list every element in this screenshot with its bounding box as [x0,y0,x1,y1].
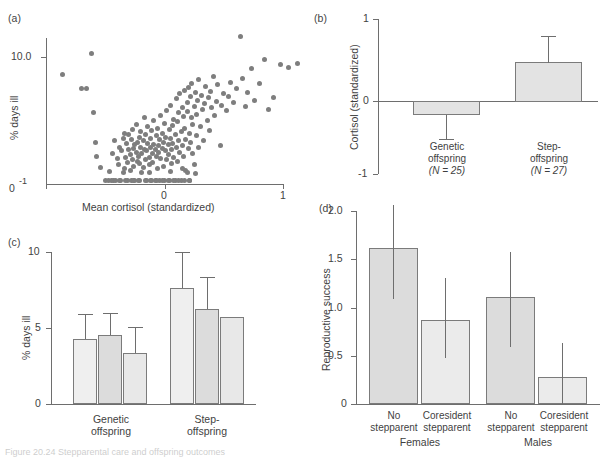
panel-b-error-step [548,36,549,63]
scatter-point [215,82,220,87]
panel-d-category-males-coresident: Coresident stepparent [528,410,600,433]
scatter-point [185,109,190,114]
scatter-point [182,126,187,131]
scatter-point [180,143,185,148]
panel-b-yticklabel-0: 0 [363,94,369,106]
scatter-point [278,62,283,67]
scatter-point [142,115,147,120]
scatter-point [110,151,115,156]
scatter-point [206,95,211,100]
scatter-point [234,86,239,91]
panel-b-category-step: Step- offspring [508,141,590,164]
scatter-point [112,138,117,143]
panel-b-sublabel-step: (N = 27) [508,165,590,177]
scatter-point [188,140,193,145]
scatter-point [196,145,201,150]
scatter-point [117,178,122,183]
scatter-point [194,112,199,117]
scatter-point [124,141,129,146]
scatter-point [121,170,126,175]
scatter-point [187,178,192,183]
panel-c-bar: (c) 10 5 0 % days ill Genetic offspring … [0,222,300,456]
scatter-point [84,86,89,91]
panel-b-category-genetic: Genetic offspring [406,141,488,164]
scatter-point [190,122,195,127]
scatter-point [243,104,248,109]
scatter-point [190,151,195,156]
scatter-point [245,90,250,95]
scatter-point [201,138,206,143]
panel-b-error-cap-genetic [439,139,454,140]
scatter-point [123,178,128,183]
scatter-point [196,77,201,82]
panel-b-ytick-1 [373,19,378,20]
scatter-point [189,81,194,86]
panel-d-ytick-15 [351,259,356,260]
scatter-point [148,178,153,183]
scatter-point [202,101,207,106]
scatter-point [231,100,236,105]
panel-d-error-females-coresident [445,278,446,358]
scatter-point [208,89,213,94]
scatter-point [148,136,153,141]
scatter-point [147,170,152,175]
scatter-point [119,148,124,153]
scatter-point [271,95,276,100]
scatter-point [185,170,190,175]
panel-c-error-genetic-2 [110,313,111,335]
scatter-point [240,76,245,81]
panel-c-bar-genetic-3 [123,353,147,404]
scatter-point [60,72,65,77]
panel-d-ytick-05 [351,356,356,357]
figure-caption: Figure 20.24 Stepparental care and offsp… [5,447,225,457]
scatter-point [193,90,198,95]
panel-c-error-step-1 [182,252,183,288]
scatter-point [205,118,210,123]
panel-b-sublabel-genetic: (N = 25) [406,165,488,177]
panel-d-ytick-10 [351,308,356,309]
scatter-point [131,178,136,183]
scatter-point [166,178,171,183]
panel-b-ytick-0 [373,101,378,102]
scatter-point [199,93,204,98]
scatter-point [134,122,139,127]
scatter-point [175,119,180,124]
scatter-point [181,114,186,119]
scatter-point [262,57,267,62]
panel-d-yticklabel-15: 1.5 [328,252,343,264]
panel-d-category-females-coresident: Coresident stepparent [411,410,483,433]
panel-d-yticklabel-0: 0 [341,397,347,409]
scatter-point [226,94,231,99]
panel-d-y-axis [356,211,357,405]
panel-c-error-cap-step-2 [200,277,215,278]
panel-b-ylabel: Cortisol (standardized) [348,44,360,150]
panel-b-bar-step [515,62,582,102]
scatter-point [207,128,212,133]
scatter-point [200,107,205,112]
scatter-point [295,61,300,66]
panel-d-ytick-20 [351,211,356,212]
scatter-point [181,154,186,159]
panel-d-error-females-no-stepparent [393,205,394,299]
scatter-point [107,169,112,174]
panel-b-ytick-neg1 [373,174,378,175]
scatter-point [158,113,163,118]
panel-c-label: (c) [8,236,21,248]
scatter-point [158,156,163,161]
panel-c-error-cap-genetic-3 [128,327,143,328]
scatter-point [174,145,179,150]
scatter-point [228,80,233,85]
scatter-point [155,126,160,131]
panel-b-bar: (b) 1 0 -1 Cortisol (standardized) Genet… [300,0,616,200]
panel-c-error-cap-genetic-3-line [135,327,136,353]
scatter-point [176,178,181,183]
scatter-point [193,171,198,176]
panel-c-category-genetic: Genetic offspring [69,414,153,437]
scatter-point [115,156,120,161]
scatter-point [168,169,173,174]
scatter-point [252,98,257,103]
panel-b-yticklabel-1: 1 [363,12,369,24]
panel-d-bar: (d) 2.0 1.5 1.0 0.5 0 Reproductive succe… [300,196,616,456]
scatter-point [166,152,171,157]
panel-d-error-males-coresident [562,343,563,404]
